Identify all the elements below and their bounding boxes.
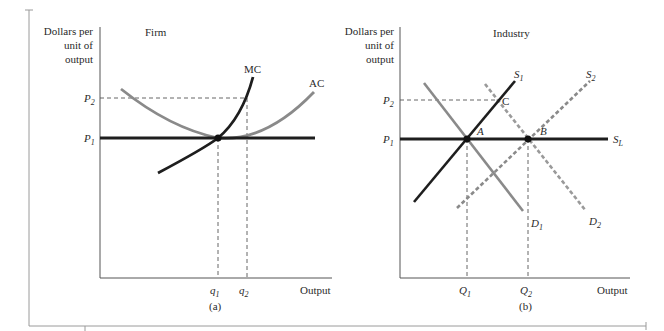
point-a [464, 136, 471, 143]
y-axis-label-1: Dollars per [44, 25, 94, 37]
y-axis-label-3: output [65, 53, 93, 65]
panel-caption: (b) [519, 300, 532, 313]
point-b [525, 136, 532, 143]
s1-label: S1 [514, 68, 524, 83]
q1-label: q1 [210, 284, 220, 299]
ac-label: AC [309, 77, 324, 89]
d2-label: D2 [588, 215, 601, 230]
p1-label: P1 [83, 132, 95, 147]
point-a-label: A [476, 125, 484, 137]
y-axis-label-2: unit of [64, 39, 93, 51]
p2-label: P2 [83, 92, 95, 107]
p1-label: P1 [382, 133, 394, 148]
d2-curve [485, 84, 586, 211]
sl-label: SL [613, 133, 624, 148]
outer-frame [25, 10, 646, 331]
x-axis-label: Output [597, 284, 628, 296]
d1-label: D1 [530, 217, 543, 232]
y-axis-label-3: output [366, 53, 394, 65]
q2-label: q2 [239, 284, 249, 299]
q2-label: Q2 [520, 284, 532, 299]
y-axis-label-1: Dollars per [345, 25, 395, 37]
mc-curve [158, 77, 253, 173]
q1-label: Q1 [459, 284, 471, 299]
panel-firm: Firm Dollars per unit of output P2 P1 MC… [44, 25, 332, 313]
y-axis-label-2: unit of [365, 39, 394, 51]
firm-title: Firm [145, 26, 167, 38]
equilibrium-point [215, 135, 222, 142]
panel-caption: (a) [209, 300, 222, 313]
x-axis-label: Output [300, 284, 331, 296]
s2-curve [457, 81, 590, 208]
ac-curve [121, 89, 314, 138]
p2-label: P2 [382, 94, 394, 109]
s1-curve [414, 81, 515, 202]
point-b-label: B [540, 125, 547, 137]
mc-label: MC [244, 63, 261, 75]
point-c-label: C [502, 95, 509, 107]
panel-industry: Industry Dollars per unit of output P2 P… [345, 25, 630, 313]
figure: Firm Dollars per unit of output P2 P1 MC… [0, 0, 664, 331]
industry-title: Industry [493, 27, 530, 39]
s2-label: S2 [586, 68, 596, 83]
